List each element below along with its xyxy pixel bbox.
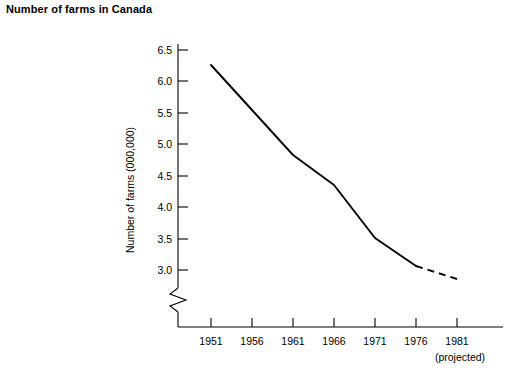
data-line-observed	[211, 65, 416, 266]
x-tick-label-1951: 1951	[199, 335, 223, 347]
y-tick-label-3-0: 3.0	[157, 264, 172, 276]
y-tick-label-4-0: 4.0	[157, 201, 172, 213]
y-tick-label-5-0: 5.0	[157, 138, 172, 150]
y-axis-title: Number of farms (000,000)	[124, 127, 136, 253]
y-axis-tick-labels: 6.5 6.0 5.5 5.0 4.5 4.0 3.5 3.0	[157, 44, 172, 276]
x-tick-label-1976: 1976	[404, 335, 428, 347]
y-tick-label-6-5: 6.5	[157, 44, 172, 56]
chart-container: Number of farms in Canada 6.5 6.0 5.5 5.…	[0, 0, 510, 380]
y-tick-label-4-5: 4.5	[157, 170, 172, 182]
y-tick-label-3-5: 3.5	[157, 233, 172, 245]
x-axis-tick-labels: 1951 1956 1961 1966 1971 1976 1981	[199, 335, 469, 347]
y-tick-label-6-0: 6.0	[157, 75, 172, 87]
line-chart-plot: 6.5 6.0 5.5 5.0 4.5 4.0 3.5 3.0 Number o…	[0, 0, 510, 380]
y-tick-label-5-5: 5.5	[157, 107, 172, 119]
x-axis-ticks	[211, 318, 457, 327]
x-tick-label-1961: 1961	[281, 335, 305, 347]
y-axis-ticks	[178, 50, 188, 270]
x-tick-label-1956: 1956	[240, 335, 264, 347]
data-line-projected	[416, 266, 457, 279]
x-tick-label-1971: 1971	[363, 335, 387, 347]
x-tick-label-1966: 1966	[322, 335, 346, 347]
projected-annotation: (projected)	[435, 351, 485, 363]
y-axis-break-icon	[170, 288, 186, 312]
x-tick-label-1981: 1981	[445, 335, 469, 347]
